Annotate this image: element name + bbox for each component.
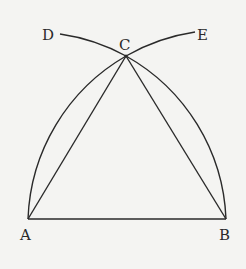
label-e: E [197,26,208,44]
segment-ac [28,56,126,219]
label-c: C [119,36,130,54]
arc-centered-b [28,32,195,219]
label-a: A [19,226,31,244]
label-d: D [42,26,54,44]
triangle-construction-figure: A B C D E [0,0,246,269]
diagram-canvas: A B C D E [0,0,246,269]
arc-centered-a [60,34,226,219]
label-b: B [219,226,230,244]
point-c-dot [124,54,127,57]
segment-bc [126,56,226,219]
